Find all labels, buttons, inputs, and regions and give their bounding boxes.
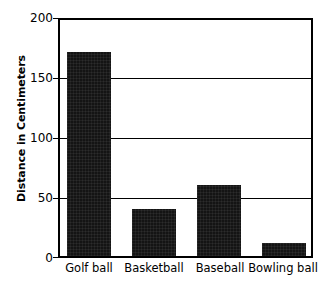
- y-tick-label-100: 100: [26, 132, 53, 144]
- x-category-label-bowling-ball: Bowling ball: [238, 262, 328, 275]
- bar-golf-ball: [67, 52, 111, 256]
- plot-area: [58, 18, 313, 258]
- bar-basketball: [132, 209, 176, 256]
- y-tick-label-50: 50: [26, 192, 53, 204]
- y-tick-label-150: 150: [26, 72, 53, 84]
- y-tick-label-200: 200: [26, 12, 53, 24]
- y-axis-tick-labels: 200 150 100 50 0: [26, 0, 53, 289]
- bar-chart: Distance in Centimeters 200 150 100 50 0…: [0, 0, 329, 289]
- bar-baseball: [197, 185, 241, 256]
- bar-bowling-ball: [262, 243, 306, 256]
